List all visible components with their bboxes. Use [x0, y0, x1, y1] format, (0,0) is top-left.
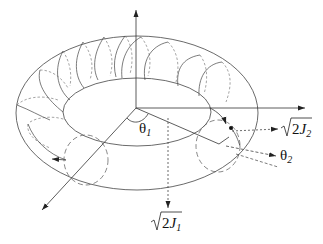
torus-outer-edge	[16, 36, 258, 190]
label-sqrt2J1: 2J1	[151, 212, 182, 233]
diagram-canvas: θ1 θ2 2J1 2J2	[0, 0, 323, 244]
trajectory-curve-left	[28, 124, 66, 160]
svg-text:2J2: 2J2	[292, 121, 311, 139]
trajectory-point	[229, 126, 233, 130]
radius-tick	[219, 137, 229, 144]
svg-text:θ2: θ2	[280, 147, 292, 165]
svg-text:2J1: 2J1	[162, 215, 181, 233]
torus-inner-edge	[63, 78, 211, 146]
radius-line	[136, 108, 219, 144]
arrow-theta2	[226, 146, 276, 156]
trajectory-curve-right	[210, 108, 226, 124]
label-sqrt2J2: 2J2	[281, 118, 312, 139]
trajectory-solid	[17, 36, 222, 120]
label-theta1: θ1	[139, 120, 151, 138]
torus-diagram: θ1 θ2 2J1 2J2	[0, 0, 323, 244]
svg-text:θ1: θ1	[139, 120, 151, 138]
theta2-tangent	[236, 154, 278, 167]
label-theta2: θ2	[280, 147, 292, 165]
